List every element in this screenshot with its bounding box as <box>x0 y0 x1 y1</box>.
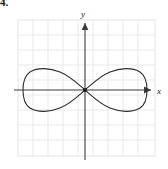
origin-crossing-point <box>83 88 87 92</box>
lemniscate-plot: y x <box>0 0 168 169</box>
x-axis-label: x <box>156 86 161 96</box>
figure-container: 4. <box>0 0 168 169</box>
y-axis-label: y <box>80 9 85 19</box>
